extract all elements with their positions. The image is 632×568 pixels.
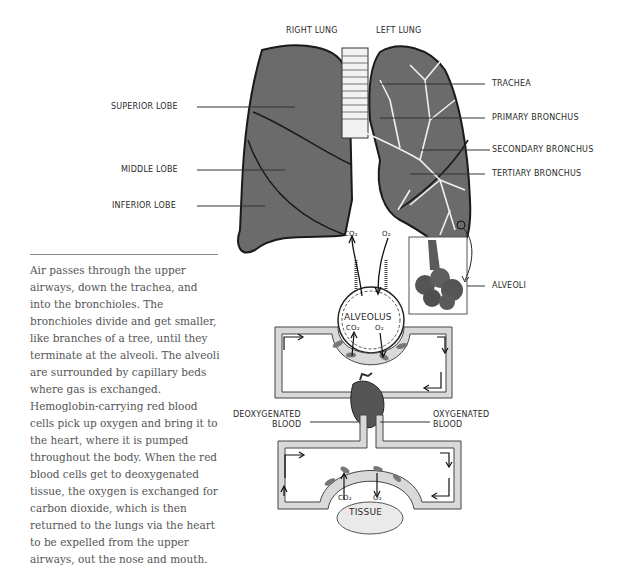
label-oxygenated-blood: BLOOD (433, 420, 462, 429)
right-lung (238, 45, 352, 252)
label-tertiary-bronchus: TERTIARY BRONCHUS (492, 169, 581, 178)
label-tissue-o2: O₂ (373, 494, 382, 502)
alveolus (338, 236, 404, 353)
label-inferior-lobe: INFERIOR LOBE (112, 201, 176, 210)
label-oxygenated: OXYGENATED (433, 410, 489, 419)
label-alveolus: ALVEOLUS (344, 312, 392, 322)
label-alveoli: ALVEOLI (492, 281, 526, 290)
label-primary-bronchus: PRIMARY BRONCHUS (492, 113, 579, 122)
label-top-co2: CO₂ (344, 230, 358, 238)
label-deoxygenated: DEOXYGENATED (233, 410, 301, 419)
label-tissue-co2: CO₂ (338, 494, 352, 502)
left-lung (360, 46, 470, 252)
trachea (342, 48, 368, 138)
label-superior-lobe: SUPERIOR LOBE (111, 102, 178, 111)
label-alveolus-co2: CO₂ (346, 324, 360, 332)
paragraph-divider (30, 254, 218, 255)
alveoli-inset (409, 228, 472, 314)
label-secondary-bronchus: SECONDARY BRONCHUS (492, 145, 593, 154)
label-right-lung: RIGHT LUNG (286, 26, 338, 35)
label-middle-lobe: MIDDLE LOBE (121, 165, 178, 174)
label-deoxygenated-blood: BLOOD (272, 420, 301, 429)
label-left-lung: LEFT LUNG (376, 26, 421, 35)
label-trachea: TRACHEA (492, 79, 531, 88)
label-tissue: TISSUE (349, 507, 382, 517)
label-top-o2: O₂ (382, 230, 391, 238)
label-alveolus-o2: O₂ (375, 324, 384, 332)
description-paragraph: Air passes through the upper airways, do… (30, 262, 220, 568)
